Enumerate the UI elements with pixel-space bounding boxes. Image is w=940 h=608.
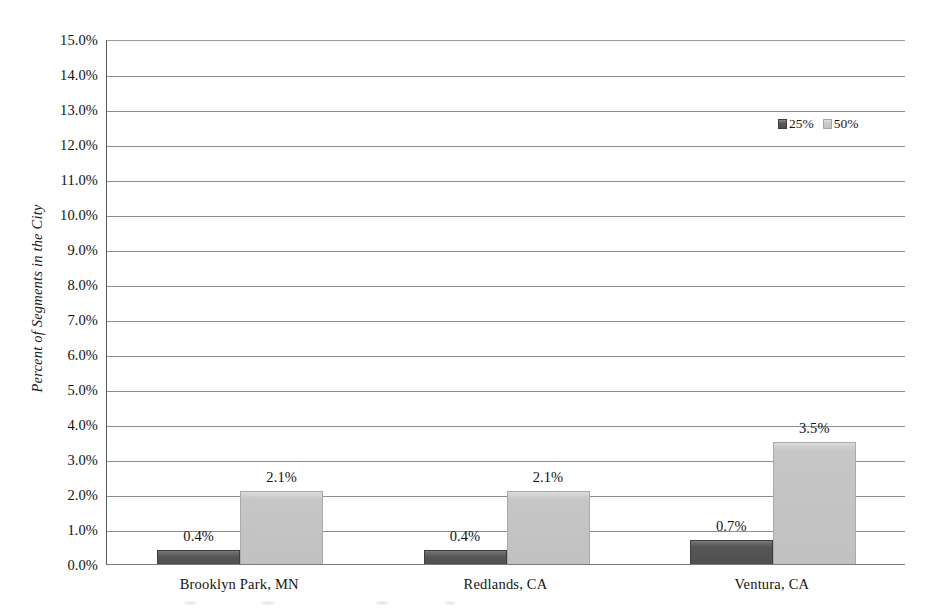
legend-entry-25: 25%	[778, 117, 814, 131]
y-tick-label: 5.0%	[6, 382, 98, 399]
y-tick-label: 7.0%	[6, 312, 98, 329]
y-tick-label: 2.0%	[6, 487, 98, 504]
gridline	[107, 76, 905, 77]
gridline	[107, 146, 905, 147]
bar-value-label: 2.1%	[266, 469, 297, 486]
gridline	[107, 216, 905, 217]
bar-value-label: 2.1%	[533, 469, 564, 486]
gridline	[107, 111, 905, 112]
bar-50	[240, 491, 323, 565]
y-tick-label: 6.0%	[6, 347, 98, 364]
legend-entry-50: 50%	[823, 117, 859, 131]
y-tick-label: 4.0%	[6, 417, 98, 434]
y-tick-label: 15.0%	[6, 32, 98, 49]
bar-50	[507, 491, 590, 565]
bar-25	[424, 550, 507, 564]
y-tick-label: 10.0%	[6, 207, 98, 224]
gridline	[107, 426, 905, 427]
legend-label-25: 25%	[789, 117, 814, 131]
gridline	[107, 391, 905, 392]
y-tick-label: 11.0%	[6, 172, 98, 189]
y-tick-label: 0.0%	[6, 557, 98, 574]
legend-swatch-50-icon	[823, 119, 832, 129]
y-tick-label: 8.0%	[6, 277, 98, 294]
chart-legend: 25% 50%	[778, 117, 859, 131]
category-label: Brooklyn Park, MN	[180, 576, 299, 593]
y-tick-label: 13.0%	[6, 102, 98, 119]
bar-25	[157, 550, 240, 564]
y-axis-tick-labels: 0.0%1.0%2.0%3.0%4.0%5.0%6.0%7.0%8.0%9.0%…	[0, 0, 98, 608]
legend-label-50: 50%	[834, 117, 859, 131]
y-tick-label: 9.0%	[6, 242, 98, 259]
y-tick-label: 3.0%	[6, 452, 98, 469]
bar-50	[773, 442, 856, 565]
bar-value-label: 0.4%	[183, 528, 214, 545]
bar-value-label: 0.4%	[450, 528, 481, 545]
y-tick-label: 12.0%	[6, 137, 98, 154]
gridline	[107, 181, 905, 182]
bar-25	[690, 540, 773, 565]
gridline	[107, 251, 905, 252]
legend-swatch-25-icon	[778, 119, 787, 129]
bar-value-label: 3.5%	[799, 420, 830, 437]
y-tick-label: 14.0%	[6, 67, 98, 84]
gridline	[107, 321, 905, 322]
gridline	[107, 286, 905, 287]
category-label: Redlands, CA	[464, 576, 548, 593]
gridline	[107, 356, 905, 357]
bar-value-label: 0.7%	[716, 518, 747, 535]
scan-artifact	[150, 600, 570, 607]
y-tick-label: 1.0%	[6, 522, 98, 539]
category-label: Ventura, CA	[734, 576, 809, 593]
bar-chart-figure: Percent of Segments in the City 0.0%1.0%…	[0, 0, 940, 608]
